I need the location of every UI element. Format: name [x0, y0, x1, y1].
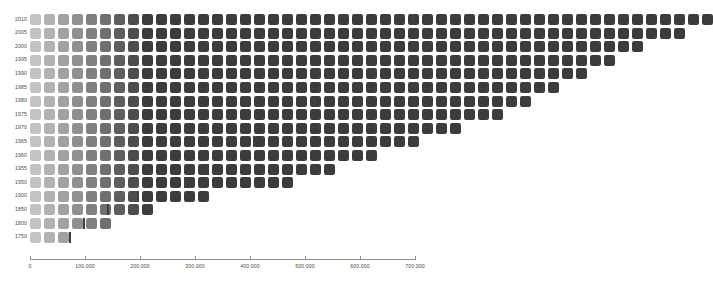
chart-unit-square [156, 109, 167, 120]
chart-unit-square [142, 82, 153, 93]
chart-unit-square [296, 150, 307, 161]
chart-unit-square [30, 41, 41, 52]
chart-unit-square [310, 150, 321, 161]
chart-unit-square [142, 123, 153, 134]
chart-unit-square [520, 28, 531, 39]
chart-unit-square [142, 109, 153, 120]
chart-unit-square [142, 14, 153, 25]
chart-row-end-marker [137, 191, 139, 202]
chart-unit-square [450, 123, 461, 134]
chart-unit-square [352, 41, 363, 52]
chart-unit-square [254, 164, 265, 175]
chart-unit-square [436, 96, 447, 107]
chart-row-end-marker [83, 218, 85, 229]
chart-unit-square [30, 136, 41, 147]
chart-unit-square [128, 68, 139, 79]
chart-unit-square [604, 14, 615, 25]
chart-unit-square [226, 82, 237, 93]
chart-unit-square [394, 82, 405, 93]
chart-unit-square [156, 164, 167, 175]
chart-unit-square [548, 68, 559, 79]
chart-unit-square [30, 55, 41, 66]
chart-unit-square [72, 218, 83, 229]
chart-unit-square [114, 150, 125, 161]
chart-unit-square [268, 41, 279, 52]
chart-unit-square [380, 123, 391, 134]
chart-unit-square [422, 96, 433, 107]
chart-row-end-marker [300, 109, 302, 120]
chart-unit-square [156, 14, 167, 25]
chart-unit-square [142, 136, 153, 147]
chart-unit-square [478, 55, 489, 66]
chart-row-end-marker [412, 14, 414, 25]
chart-unit-square [128, 164, 139, 175]
y-axis-label-text: 1970 [1, 126, 27, 131]
chart-unit-square [324, 136, 335, 147]
chart-unit-square [184, 55, 195, 66]
chart-row: 1985 [0, 81, 445, 94]
chart-unit-square [380, 109, 391, 120]
chart-unit-square [44, 41, 55, 52]
chart-unit-square [254, 28, 265, 39]
y-axis-label-text: 1955 [1, 166, 27, 171]
chart-unit-square [492, 14, 503, 25]
chart-row-end-marker [330, 82, 332, 93]
chart-unit-square [604, 28, 615, 39]
chart-unit-square [156, 96, 167, 107]
chart-unit-square [86, 82, 97, 93]
chart-unit-square [422, 28, 433, 39]
chart-unit-square [282, 136, 293, 147]
chart-unit-square [632, 28, 643, 39]
chart-unit-square [100, 204, 111, 215]
chart-unit-square [44, 177, 55, 188]
chart-unit-square [240, 150, 251, 161]
chart-unit-square [212, 41, 223, 52]
chart-unit-square [296, 14, 307, 25]
chart-unit-square [226, 177, 237, 188]
chart-unit-square [30, 14, 41, 25]
chart-unit-square [170, 68, 181, 79]
chart-unit-square [394, 55, 405, 66]
y-axis-label-text: 1950 [1, 180, 27, 185]
chart-unit-square [170, 55, 181, 66]
chart-unit-square [296, 41, 307, 52]
chart-unit-square [184, 136, 195, 147]
chart-unit-square [464, 14, 475, 25]
chart-unit-square [520, 41, 531, 52]
chart-unit-square [100, 96, 111, 107]
chart-unit-square [380, 28, 391, 39]
chart-unit-square [72, 82, 83, 93]
chart-unit-square [72, 204, 83, 215]
chart-unit-square [72, 41, 83, 52]
y-axis-label-text: 1985 [1, 85, 27, 90]
chart-row: 2000 [0, 40, 445, 53]
chart-unit-square [254, 14, 265, 25]
chart-unit-square [492, 55, 503, 66]
chart-unit-square [58, 14, 69, 25]
chart-unit-square [310, 109, 321, 120]
chart-unit-square [212, 123, 223, 134]
chart-unit-square [44, 150, 55, 161]
chart-unit-square [198, 68, 209, 79]
chart-unit-square [100, 68, 111, 79]
chart-unit-square [142, 177, 153, 188]
chart-unit-square [324, 14, 335, 25]
chart-unit-square [30, 150, 41, 161]
chart-unit-square [100, 55, 111, 66]
x-axis-tick-label: 500,000 [295, 263, 314, 269]
chart-unit-square [170, 177, 181, 188]
chart-unit-square [128, 177, 139, 188]
chart-unit-square [226, 55, 237, 66]
chart-unit-square [548, 41, 559, 52]
chart-unit-square [86, 177, 97, 188]
y-axis-label: 1750 [0, 231, 27, 244]
chart-unit-square [464, 28, 475, 39]
chart-unit-square [268, 55, 279, 66]
chart-unit-square [86, 14, 97, 25]
chart-row-end-marker [253, 136, 255, 147]
y-axis-label: 2000 [0, 40, 27, 53]
chart-unit-square [450, 109, 461, 120]
chart-unit-square [324, 55, 335, 66]
chart-unit-square [184, 109, 195, 120]
chart-unit-square [520, 82, 531, 93]
